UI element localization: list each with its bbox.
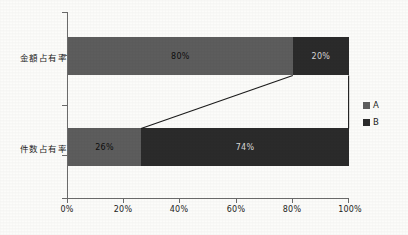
x-axis-label-100: 100% — [338, 205, 362, 214]
legend-label-a: A — [373, 101, 379, 109]
legend-label-b: B — [373, 118, 379, 126]
bar-row-amount-share: 80% 20% — [68, 37, 349, 75]
legend-item-b[interactable]: B — [363, 118, 379, 126]
legend-swatch-b-icon — [363, 119, 370, 126]
y-axis-tick — [62, 105, 68, 106]
x-axis-label-0: 0% — [60, 205, 73, 214]
category-label-count-share: 件数占有率 — [20, 144, 67, 154]
bar-row-count-share: 26% 74% — [68, 128, 349, 166]
bar-segment-b-count-share[interactable]: 74% — [141, 128, 349, 166]
x-axis-tick — [348, 198, 349, 203]
x-axis-label-60: 60% — [227, 205, 245, 214]
x-axis-tick — [67, 198, 68, 203]
bar-segment-a-amount-share[interactable]: 80% — [68, 37, 293, 75]
boundary-connector-lines — [0, 0, 408, 235]
y-axis-tick — [62, 12, 68, 13]
chart-legend: A B — [363, 101, 379, 126]
x-axis-tick — [236, 198, 237, 203]
category-label-amount-share: 金額占有率 — [20, 53, 67, 63]
scan-grain-overlay — [0, 0, 408, 235]
x-axis-line — [67, 198, 349, 199]
bar-segment-a-count-share[interactable]: 26% — [68, 128, 141, 166]
x-axis-label-20: 20% — [114, 205, 132, 214]
bar-segment-b-amount-share[interactable]: 20% — [293, 37, 349, 75]
x-axis-tick — [292, 198, 293, 203]
stacked-bar-chart: 金額占有率 件数占有率 80% 20% 26% 74% 0% 20% 40% 6… — [0, 0, 408, 235]
x-axis-tick — [123, 198, 124, 203]
legend-swatch-a-icon — [363, 102, 370, 109]
x-axis-label-40: 40% — [170, 205, 188, 214]
x-axis-label-80: 80% — [283, 205, 301, 214]
x-axis-tick — [179, 198, 180, 203]
legend-item-a[interactable]: A — [363, 101, 379, 109]
